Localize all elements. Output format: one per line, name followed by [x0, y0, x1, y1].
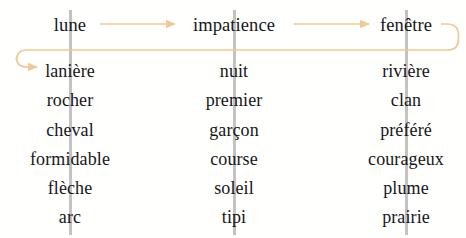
word-cell-r1c1: lune — [54, 15, 86, 36]
word-cell-r3c3: clan — [391, 90, 421, 111]
word-cell-r3c2: premier — [206, 90, 263, 111]
word-cell-r3c1: rocher — [47, 90, 94, 111]
word-cell-r4c2: garçon — [209, 120, 259, 141]
word-cell-r1c3: fenêtre — [380, 15, 432, 36]
word-cell-r2c2: nuit — [220, 61, 248, 82]
word-cell-r6c3: plume — [383, 178, 429, 199]
word-cell-r2c3: rivière — [382, 61, 430, 82]
word-cell-r5c2: course — [210, 149, 258, 170]
word-cell-r5c3: courageux — [368, 149, 444, 170]
word-cell-r7c2: tipi — [222, 207, 246, 228]
word-cell-r4c1: cheval — [46, 120, 94, 141]
word-cell-r2c1: lanière — [45, 61, 95, 82]
word-cell-r6c2: soleil — [214, 178, 254, 199]
word-grid-canvas: lune impatience fenêtre lanière nuit riv… — [0, 0, 466, 238]
word-cell-r7c1: arc — [59, 207, 81, 228]
word-cell-r1c2: impatience — [193, 15, 275, 36]
word-cell-r4c3: préféré — [380, 120, 432, 141]
word-cell-r5c1: formidable — [30, 149, 110, 170]
word-cell-r6c1: flèche — [48, 178, 93, 199]
word-cell-r7c3: prairie — [382, 207, 430, 228]
